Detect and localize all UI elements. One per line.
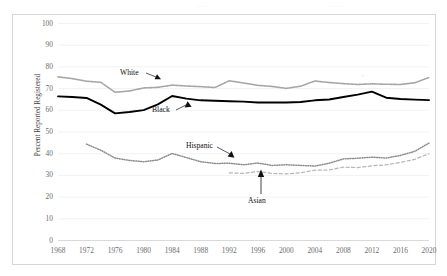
gridlines — [58, 24, 429, 241]
hispanic-arrow-line — [217, 147, 230, 154]
x-tick-label-1992: 1992 — [222, 246, 237, 255]
hispanic-series-label: Hispanic — [186, 141, 213, 150]
x-tick-label-2020: 2020 — [422, 246, 437, 255]
x-tick-label-1968: 1968 — [51, 246, 66, 255]
y-tick-label-50: 50 — [27, 127, 53, 136]
y-tick-label-40: 40 — [27, 149, 53, 158]
series-line-white — [58, 77, 429, 92]
y-tick-label-30: 30 — [27, 170, 53, 179]
x-tick-label-2004: 2004 — [307, 246, 322, 255]
y-tick-label-80: 80 — [27, 62, 53, 71]
y-tick-label-60: 60 — [27, 105, 53, 114]
x-tick-label-1980: 1980 — [136, 246, 151, 255]
series-paths — [58, 77, 429, 174]
y-tick-label-20: 20 — [27, 192, 53, 201]
black-arrow-head — [185, 101, 192, 107]
x-tick-label-2008: 2008 — [336, 246, 351, 255]
y-tick-label-10: 10 — [27, 214, 53, 223]
black-arrow-line — [176, 105, 186, 110]
callout-arrows — [146, 73, 264, 194]
white-series-label: White — [120, 68, 139, 77]
black-series-label: Black — [152, 105, 170, 114]
y-tick-label-100: 100 — [27, 19, 53, 28]
x-tick-label-1972: 1972 — [79, 246, 94, 255]
asian-series-label: Asian — [248, 196, 266, 205]
y-tick-label-70: 70 — [27, 84, 53, 93]
x-tick-label-1984: 1984 — [165, 246, 180, 255]
x-tick-label-1988: 1988 — [193, 246, 208, 255]
x-tick-label-1976: 1976 — [108, 246, 123, 255]
y-tick-label-90: 90 — [27, 40, 53, 49]
asian-arrow-head — [258, 170, 264, 178]
x-tick-label-2000: 2000 — [279, 246, 294, 255]
x-tick-label-2012: 2012 — [365, 246, 380, 255]
white-arrow-line — [146, 73, 156, 77]
series-line-hispanic — [87, 143, 429, 166]
hispanic-arrow-head — [228, 151, 235, 158]
chart-plot-area — [0, 0, 447, 276]
x-tick-label-1996: 1996 — [250, 246, 265, 255]
x-tick-label-2016: 2016 — [393, 246, 408, 255]
chart-figure: ..... ....... o Percent Reported Registe… — [0, 0, 447, 276]
y-tick-label-0: 0 — [27, 236, 53, 245]
